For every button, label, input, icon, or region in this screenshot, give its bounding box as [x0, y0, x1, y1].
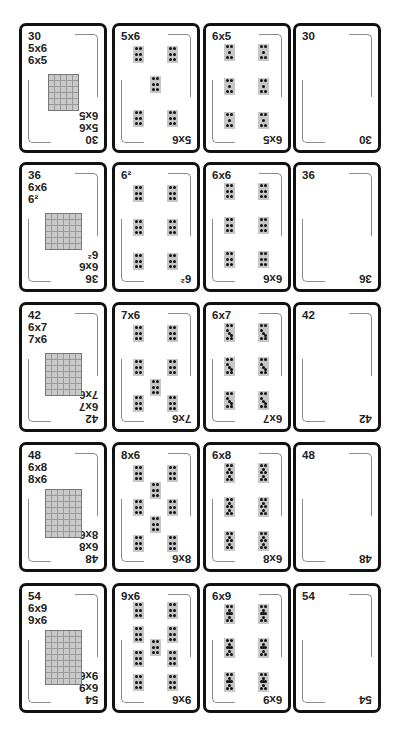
- dot-tile: [133, 626, 144, 643]
- dot: [230, 405, 233, 408]
- dot: [139, 111, 142, 114]
- dot: [169, 686, 172, 689]
- fact-card-groups-6x7[interactable]: 6x76x7: [203, 302, 291, 432]
- bottom-label-rotated: 42: [359, 413, 372, 425]
- grid-cell: [58, 637, 63, 642]
- dot-tile: [167, 325, 178, 342]
- grid-cell: [46, 244, 51, 249]
- dot: [135, 371, 138, 374]
- dot: [264, 337, 267, 340]
- fact-card-pattern-6²[interactable]: 6²6²: [112, 162, 200, 292]
- grid-cell: [58, 378, 63, 383]
- fact-card-product-54[interactable]: 546x99x6546x99x6: [19, 583, 107, 713]
- dot: [152, 489, 155, 492]
- dot: [260, 224, 263, 227]
- dot: [230, 512, 233, 515]
- top-label: 6x5: [212, 30, 231, 42]
- answer-card-36[interactable]: 3636: [293, 162, 381, 292]
- dot: [156, 489, 159, 492]
- grid-cell: [58, 366, 63, 371]
- dot: [226, 653, 229, 656]
- fact-card-product-30[interactable]: 305x66x5305x66x5: [19, 23, 107, 153]
- answer-card-48[interactable]: 4848: [293, 442, 381, 572]
- grid-cell: [58, 526, 63, 531]
- grid-cell: [52, 384, 57, 389]
- grid-cell: [76, 366, 81, 371]
- answer-card-42[interactable]: 4242: [293, 302, 381, 432]
- dot: [260, 687, 263, 690]
- dot: [260, 498, 263, 501]
- dot: [169, 506, 172, 509]
- grid-cell: [52, 238, 57, 243]
- card-label: 5x6: [172, 134, 191, 146]
- fact-card-product-36[interactable]: 366x66²366x66²: [19, 162, 107, 292]
- fact-card-groups-6x9[interactable]: 6x96x9: [203, 583, 291, 713]
- fact-card-groups-6x6[interactable]: 6x66x6: [203, 162, 291, 292]
- card-label: 7x6: [172, 413, 191, 425]
- grid-cell: [46, 637, 51, 642]
- dot: [260, 619, 263, 622]
- dot: [226, 464, 229, 467]
- dot-tile: [258, 217, 269, 234]
- dot: [260, 478, 263, 481]
- fact-card-pattern-5x6[interactable]: 5x65x6: [112, 23, 200, 153]
- grid-cell: [58, 631, 63, 636]
- grid-cell: [52, 214, 57, 219]
- dot: [226, 546, 229, 549]
- dot: [139, 477, 142, 480]
- dot: [226, 512, 229, 515]
- grid-cell: [55, 93, 60, 98]
- dot: [169, 337, 172, 340]
- dot: [152, 523, 155, 526]
- grid-cell: [58, 502, 63, 507]
- dot: [173, 547, 176, 550]
- grid-cell: [52, 366, 57, 371]
- dot: [264, 653, 267, 656]
- dot-tile: [167, 110, 178, 127]
- corner-frame: [349, 594, 372, 657]
- fact-card-groups-6x8[interactable]: 6x86x8: [203, 442, 291, 572]
- dot: [260, 605, 263, 608]
- grid-cell: [52, 514, 57, 519]
- dot: [230, 639, 233, 642]
- dot: [173, 536, 176, 539]
- fact-card-groups-6x5[interactable]: 6x56x5: [203, 23, 291, 153]
- dot: [264, 252, 267, 255]
- dot: [169, 542, 172, 545]
- card-label: 5x6: [79, 122, 98, 134]
- dot: [156, 640, 159, 643]
- grid-cell: [70, 366, 75, 371]
- grid-cell: [58, 354, 63, 359]
- grid-cell: [76, 667, 81, 672]
- fact-card-pattern-8x6[interactable]: 8x68x6: [112, 442, 200, 572]
- dot: [264, 56, 267, 59]
- grid-cell: [64, 643, 69, 648]
- top-labels: 486x88x6: [28, 449, 47, 485]
- fact-card-pattern-9x6[interactable]: 9x69x6: [112, 583, 200, 713]
- grid-cell: [76, 673, 81, 678]
- grid-cell: [70, 390, 75, 395]
- grid-cell: [76, 496, 81, 501]
- top-label: 6x8: [212, 449, 231, 461]
- bottom-label-rotated: 54: [359, 694, 372, 706]
- corner-frame: [302, 219, 325, 282]
- dot: [260, 124, 263, 127]
- card-label: 42: [302, 309, 315, 321]
- grid-cell: [52, 496, 57, 501]
- grid-cell: [52, 643, 57, 648]
- fact-card-pattern-7x6[interactable]: 7x67x6: [112, 302, 200, 432]
- grid-cell: [52, 220, 57, 225]
- fact-card-product-48[interactable]: 486x88x6486x88x6: [19, 442, 107, 572]
- fact-card-product-42[interactable]: 426x77x6426x77x6: [19, 302, 107, 432]
- dot: [173, 111, 176, 114]
- dot: [226, 532, 229, 535]
- answer-card-30[interactable]: 3030: [293, 23, 381, 153]
- grid-cell: [64, 226, 69, 231]
- dot-tile: [167, 46, 178, 63]
- dot: [135, 511, 138, 514]
- card-label: 6x7: [79, 401, 98, 413]
- card-label: 8x6: [28, 473, 47, 485]
- dot: [264, 45, 267, 48]
- answer-card-54[interactable]: 5454: [293, 583, 381, 713]
- dot-tile: [224, 183, 235, 200]
